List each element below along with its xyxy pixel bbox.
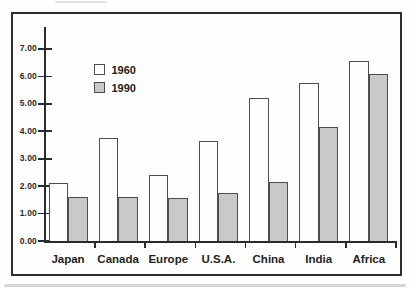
y-axis-tick-label: 1.00 <box>13 208 37 219</box>
bar-1990-canada <box>118 197 138 242</box>
y-axis-tick-label: 6.00 <box>13 71 37 82</box>
bar-1990-usa <box>218 193 238 243</box>
bar-1960-india <box>299 83 319 242</box>
category-label-usa: U.S.A. <box>192 252 244 266</box>
legend: 19601990 <box>94 63 136 94</box>
category-label-africa: Africa <box>343 252 395 266</box>
scan-artifact-top <box>55 1 107 3</box>
scanned-bar-chart-figure: 19601990 0.001.002.003.004.005.006.007.0… <box>0 0 413 289</box>
bar-1990-africa <box>369 74 389 243</box>
bar-1990-china <box>269 182 289 242</box>
bar-1960-usa <box>199 141 219 243</box>
bar-1960-europe <box>149 175 169 242</box>
chart-frame: 19601990 0.001.002.003.004.005.006.007.0… <box>11 12 402 276</box>
y-axis-tick-label: 0.00 <box>13 236 37 247</box>
category-label-japan: Japan <box>42 252 94 266</box>
y-axis-line <box>44 27 46 243</box>
legend-label: 1990 <box>112 82 136 94</box>
bar-1990-india <box>319 127 339 242</box>
bar-1990-japan <box>68 197 88 242</box>
legend-label: 1960 <box>112 64 136 76</box>
bar-1960-canada <box>99 138 119 242</box>
y-axis-tick-label: 4.00 <box>13 126 37 137</box>
category-label-europe: Europe <box>142 252 194 266</box>
y-axis-tick-label: 5.00 <box>13 98 37 109</box>
category-label-india: India <box>293 252 345 266</box>
bar-1960-africa <box>349 61 369 242</box>
scan-artifact-bottom <box>4 284 406 287</box>
y-axis-tick-label: 2.00 <box>13 181 37 192</box>
x-axis-line <box>44 241 397 243</box>
y-axis-tick-label: 3.00 <box>13 153 37 164</box>
legend-item-1960: 1960 <box>94 63 136 76</box>
bar-1990-europe <box>168 198 188 242</box>
category-label-canada: Canada <box>92 252 144 266</box>
category-label-china: China <box>243 252 295 266</box>
legend-item-1990: 1990 <box>94 81 136 94</box>
legend-swatch-1990 <box>94 82 105 93</box>
bar-1960-japan <box>49 183 69 242</box>
legend-swatch-1960 <box>94 64 105 75</box>
bar-1960-china <box>249 98 269 242</box>
y-axis-tick-label: 7.00 <box>13 43 37 54</box>
